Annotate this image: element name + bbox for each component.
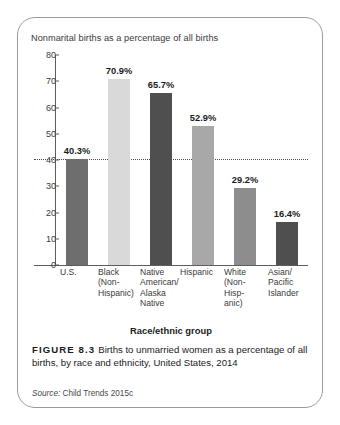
x-axis-category-label: Asian/PacificIslander xyxy=(268,267,316,298)
bar-series: 40.3%70.9%65.7%52.9%29.2%16.4% xyxy=(56,51,308,265)
x-axis-line xyxy=(34,265,308,266)
bar-group: 70.9% xyxy=(108,51,130,265)
bar xyxy=(276,222,298,265)
x-axis-title: Race/ethnic group xyxy=(18,325,323,336)
bar-value-label: 16.4% xyxy=(274,209,300,219)
bar-value-label: 52.9% xyxy=(190,113,216,123)
y-axis-tick-label: 30 xyxy=(30,181,56,191)
y-axis-tick-label: 0 xyxy=(30,260,56,270)
bar-value-label: 40.3% xyxy=(64,146,90,156)
source-label: Source: xyxy=(32,389,60,398)
y-axis-tick-label: 10 xyxy=(30,234,56,244)
bar-value-label: 29.2% xyxy=(232,175,258,185)
figure-number: FIGURE 8.3 xyxy=(32,344,95,355)
bar xyxy=(234,188,256,265)
y-axis-tick-label: 80 xyxy=(30,50,56,60)
bar xyxy=(66,159,88,265)
bar-group: 16.4% xyxy=(276,51,298,265)
y-axis-tick-label: 60 xyxy=(30,103,56,113)
bar xyxy=(108,79,130,265)
bar-value-label: 70.9% xyxy=(106,66,132,76)
x-axis-category-labels: U.S.Black(Non-Hispanic)NativeAmerican/Al… xyxy=(56,267,314,325)
y-axis-tick-label: 50 xyxy=(30,129,56,139)
bar-group: 29.2% xyxy=(234,51,256,265)
figure-card: Nonmarital births as a percentage of all… xyxy=(17,17,323,408)
figure-caption: FIGURE 8.3Births to unmarried women as a… xyxy=(32,343,310,370)
bar-group: 52.9% xyxy=(192,51,214,265)
bar xyxy=(192,126,214,265)
chart-plot-area: 01020304050607080 40.3%70.9%65.7%52.9%29… xyxy=(18,51,323,251)
bar xyxy=(150,93,172,265)
x-axis-category-label: Hispanic xyxy=(180,267,228,277)
chart-title: Nonmarital births as a percentage of all… xyxy=(31,33,218,43)
source-text: Child Trends 2015c xyxy=(63,389,134,398)
y-axis-tick-label: 20 xyxy=(30,208,56,218)
bar-value-label: 65.7% xyxy=(148,80,174,90)
bar-group: 40.3% xyxy=(66,51,88,265)
figure-source: Source: Child Trends 2015c xyxy=(32,389,310,398)
x-axis-category-label: White(Non-Hisp-anic) xyxy=(224,267,272,309)
y-axis-tick-label: 70 xyxy=(30,76,56,86)
bar-group: 65.7% xyxy=(150,51,172,265)
x-axis-category-label: Black(Non-Hispanic) xyxy=(98,267,146,298)
